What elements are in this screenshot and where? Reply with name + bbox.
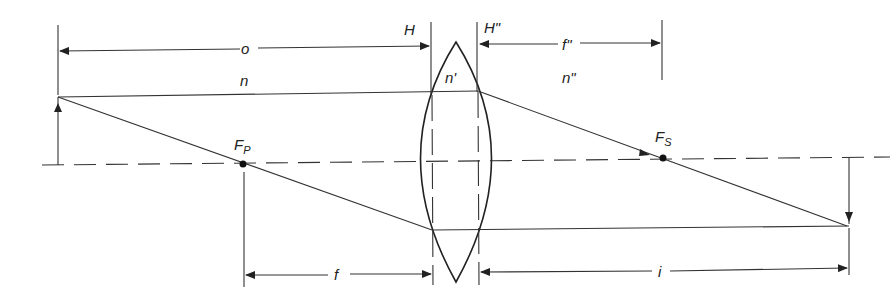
label-fp: FP: [234, 136, 251, 156]
label-n: n: [240, 72, 248, 89]
label-h2: H": [484, 19, 501, 36]
label-f: f: [334, 266, 340, 283]
front-focal-length-dimension: [246, 274, 431, 275]
label-n2: n": [562, 69, 576, 86]
object-arrow: [54, 97, 62, 165]
label-n-prime: n': [445, 69, 457, 86]
label-i: i: [658, 263, 662, 280]
thick-lens-diagram: o H H" f" n n' n" FP FS f i: [0, 0, 895, 300]
label-o: o: [241, 40, 249, 57]
focal-point-primary: [240, 161, 247, 168]
optical-axis: [42, 157, 890, 165]
principal-plane-h2: [478, 92, 479, 285]
label-fs: FS: [655, 128, 672, 148]
image-arrow: [845, 157, 853, 275]
principal-plane-h: [432, 95, 433, 285]
image-distance-dimension: [481, 268, 847, 272]
label-f2: f": [562, 36, 572, 53]
focal-point-secondary: [660, 155, 667, 162]
label-h: H: [404, 21, 415, 38]
